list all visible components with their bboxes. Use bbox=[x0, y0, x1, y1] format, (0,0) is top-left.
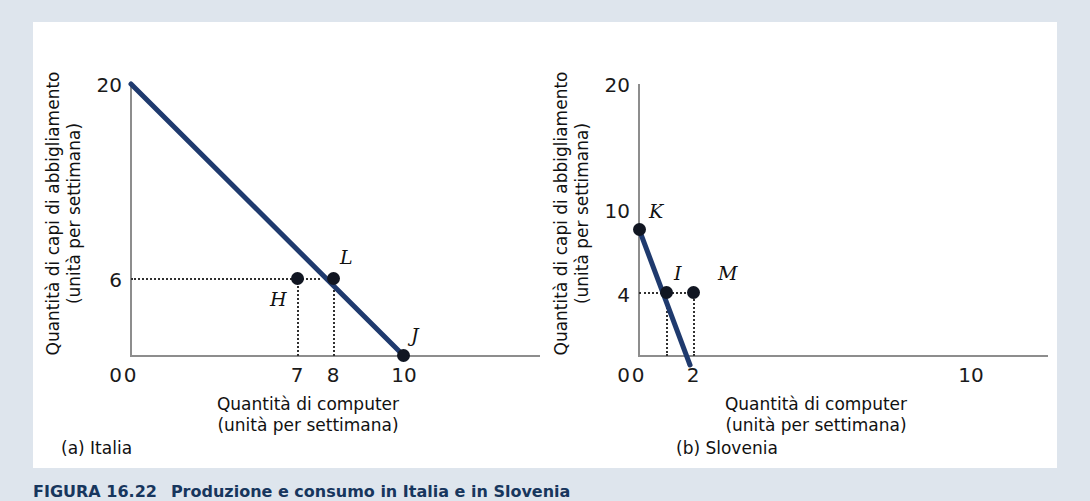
panel-caption-slovenia: (b) Slovenia bbox=[676, 438, 778, 458]
y-axis-title-line1: Quantità di capi di abbigliamento bbox=[551, 71, 572, 356]
y-axis-title-slovenia: Quantità di capi di abbigliamento (unità… bbox=[551, 71, 594, 356]
chart-panel-slovenia: 20 10 4 0 0 2 10 K I M Q bbox=[553, 22, 1057, 468]
figure-root: 20 6 0 0 7 8 10 H L J Qu bbox=[0, 0, 1090, 501]
data-point-label-K: K bbox=[649, 200, 663, 222]
data-point-label-L: L bbox=[340, 246, 353, 268]
x-axis-title-line2: (unità per settimana) bbox=[676, 415, 956, 436]
y-axis-title-line2: (unità per settimana) bbox=[64, 71, 85, 356]
x-axis-title-line2: (unità per settimana) bbox=[168, 415, 448, 436]
data-point-H bbox=[291, 272, 304, 285]
x-axis-title-line1: Quantità di computer bbox=[676, 394, 956, 415]
data-point-label-M: M bbox=[718, 262, 737, 284]
data-point-K bbox=[633, 223, 646, 236]
x-axis-title-slovenia: Quantità di computer (unità per settiman… bbox=[676, 394, 956, 437]
x-axis-title-italia: Quantità di computer (unità per settiman… bbox=[168, 394, 448, 437]
data-point-J bbox=[397, 349, 410, 362]
y-axis-title-line2: (unità per settimana) bbox=[572, 71, 593, 356]
figure-number: FIGURA 16.22 bbox=[33, 482, 157, 501]
x-axis-title-line1: Quantità di computer bbox=[168, 394, 448, 415]
y-axis-title-italia: Quantità di capi di abbigliamento (unità… bbox=[43, 71, 86, 356]
data-point-M bbox=[687, 286, 700, 299]
y-axis-title-line1: Quantità di capi di abbigliamento bbox=[43, 71, 64, 356]
panel-caption-italia: (a) Italia bbox=[61, 438, 132, 458]
data-point-I bbox=[660, 286, 673, 299]
data-point-label-J: J bbox=[411, 324, 419, 346]
chart-panel-italia: 20 6 0 0 7 8 10 H L J Qu bbox=[33, 22, 553, 468]
data-point-L bbox=[327, 272, 340, 285]
data-point-label-H: H bbox=[270, 288, 287, 310]
figure-white-panel: 20 6 0 0 7 8 10 H L J Qu bbox=[33, 22, 1057, 468]
figure-caption: FIGURA 16.22Produzione e consumo in Ital… bbox=[33, 482, 1057, 501]
figure-caption-text: Produzione e consumo in Italia e in Slov… bbox=[171, 482, 571, 501]
data-point-label-I: I bbox=[674, 262, 682, 284]
